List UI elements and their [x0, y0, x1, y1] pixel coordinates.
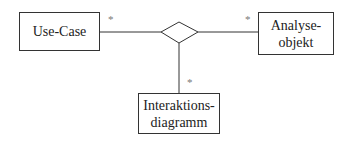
- use-case-label: Use-Case: [33, 23, 87, 40]
- interaktionsdiagramm-label-line1: Interaktions-: [143, 97, 215, 114]
- interaktionsdiagramm-label-line2: diagramm: [143, 114, 215, 131]
- analyseobjekt-class: Analyse- objekt: [258, 12, 334, 55]
- multiplicity-analyseobjekt: *: [245, 13, 251, 25]
- analyseobjekt-label-line2: objekt: [271, 34, 322, 51]
- multiplicity-use-case: *: [108, 13, 114, 25]
- use-case-class: Use-Case: [19, 12, 100, 51]
- multiplicity-interaktionsdiagramm: *: [187, 76, 193, 88]
- analyseobjekt-label-line1: Analyse-: [271, 17, 322, 34]
- association-diamond: [161, 22, 198, 43]
- interaktionsdiagramm-class: Interaktions- diagramm: [138, 93, 220, 134]
